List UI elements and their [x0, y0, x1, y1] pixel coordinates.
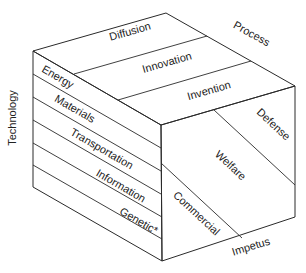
process-label-invention: Invention: [186, 78, 232, 102]
technology-label-information: Information: [94, 167, 148, 205]
technology-cube-diagram: Technology Process Impetus Diffusion Inn…: [0, 0, 306, 273]
right-face: [161, 86, 295, 261]
process-label-innovation: Innovation: [141, 49, 193, 75]
technology-label-materials: Materials: [53, 92, 98, 125]
axis-label-process: Process: [232, 19, 273, 49]
technology-label-genetic: Genetic*: [118, 205, 161, 237]
axis-label-technology: Technology: [6, 90, 18, 146]
impetus-label-welfare: Welfare: [213, 148, 249, 182]
technology-label-transportation: Transportation: [68, 126, 135, 172]
axis-label-impetus: Impetus: [230, 235, 271, 258]
technology-dividers: [33, 74, 162, 239]
technology-label-energy: Energy: [40, 63, 77, 91]
impetus-label-defense: Defense: [255, 106, 293, 143]
